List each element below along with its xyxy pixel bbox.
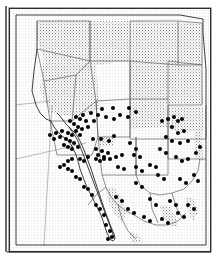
locality-dot [98, 159, 102, 163]
locality-dot [68, 139, 72, 143]
locality-dot [178, 177, 182, 181]
locality-dot [72, 122, 76, 126]
locality-dot [186, 203, 190, 207]
locality-dot [134, 165, 138, 169]
locality-dot [89, 111, 93, 115]
locality-dot [126, 207, 130, 211]
locality-dot [116, 165, 120, 169]
locality-dot [134, 110, 138, 114]
locality-dot [111, 106, 115, 110]
locality-dot [128, 141, 132, 145]
locality-dot [66, 145, 70, 149]
locality-dot [164, 135, 168, 139]
locality-dot [134, 181, 138, 185]
locality-dot [60, 129, 64, 133]
locality-dot [100, 149, 104, 153]
locality-dot [154, 203, 158, 207]
locality-dot [66, 159, 70, 163]
locality-dot [82, 185, 86, 189]
locality-dot [170, 139, 174, 143]
stipple-region-1 [130, 21, 202, 65]
locality-dot [91, 137, 95, 141]
locality-dot [186, 157, 190, 161]
locality-dot [98, 207, 102, 211]
locality-dot [176, 211, 180, 215]
locality-dot [86, 125, 90, 129]
locality-dot [94, 203, 98, 207]
locality-dot [78, 157, 82, 161]
locality-dot [102, 213, 106, 217]
locality-dot [118, 113, 122, 117]
locality-dot [90, 193, 94, 197]
locality-dot [70, 169, 74, 173]
locality-dot [62, 143, 66, 147]
stipple-region-5 [130, 101, 167, 129]
locality-dot [84, 119, 88, 123]
locality-dot [154, 165, 158, 169]
locality-dot [140, 185, 144, 189]
locality-dot [168, 199, 172, 203]
locality-dot [74, 115, 78, 119]
locality-dot [112, 134, 116, 138]
locality-dot [162, 177, 166, 181]
locality-dot [112, 117, 116, 121]
locality-dot [182, 215, 186, 219]
locality-dot [94, 147, 98, 151]
locality-dot [120, 153, 124, 157]
distribution-map-figure [0, 0, 218, 264]
locality-dot [192, 173, 196, 177]
locality-dot [156, 173, 160, 177]
locality-dot [176, 119, 180, 123]
locality-dot [106, 237, 110, 241]
locality-dot [86, 187, 90, 191]
locality-dot [78, 117, 82, 121]
locality-dot [78, 177, 82, 181]
locality-dot [192, 207, 196, 211]
locality-dot [66, 167, 70, 171]
locality-dot [64, 137, 68, 141]
locality-dot [186, 139, 190, 143]
locality-dot [81, 113, 85, 117]
locality-dot [76, 125, 80, 129]
locality-dot [127, 106, 131, 110]
locality-dot [100, 107, 104, 111]
locality-dot [94, 157, 98, 161]
stipple-region-4 [168, 63, 203, 105]
locality-dot [107, 139, 111, 143]
locality-dot [166, 117, 170, 121]
locality-dot [120, 199, 124, 203]
locality-dot [70, 157, 74, 161]
locality-dot [160, 119, 164, 123]
locality-dot [72, 141, 76, 145]
locality-dot [160, 217, 164, 221]
locality-dot [132, 153, 136, 157]
locality-dot [180, 159, 184, 163]
stipple-region-3 [130, 61, 168, 103]
locality-dot [114, 155, 118, 159]
scan-edge-left [5, 6, 7, 252]
locality-dot [134, 147, 138, 151]
locality-dot [158, 147, 162, 151]
locality-dot [184, 181, 188, 185]
locality-dot [142, 215, 146, 219]
locality-dot [74, 175, 78, 179]
locality-dot [174, 155, 178, 159]
locality-dot [70, 147, 74, 151]
locality-dot [108, 157, 112, 161]
locality-dot [99, 137, 103, 141]
locality-dot [102, 157, 106, 161]
locality-dot [70, 133, 74, 137]
locality-dot [140, 169, 144, 173]
locality-dot [132, 211, 136, 215]
locality-dot [196, 179, 200, 183]
locality-dot [170, 125, 174, 129]
locality-dot [106, 151, 110, 155]
locality-dot [68, 119, 72, 123]
map-canvas [10, 9, 210, 251]
locality-dot [178, 141, 182, 145]
locality-dot [164, 151, 168, 155]
locality-dot [148, 219, 152, 223]
locality-dot [180, 117, 184, 121]
locality-dot [176, 131, 180, 135]
locality-dot [174, 203, 178, 207]
